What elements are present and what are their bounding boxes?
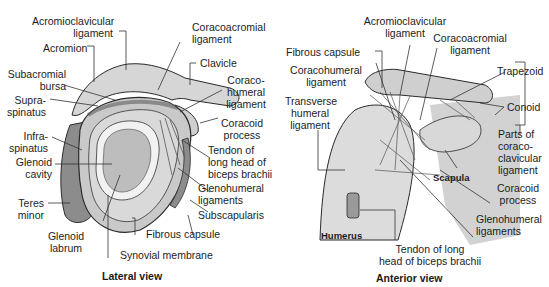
caption-lateral-view: Lateral view — [102, 270, 162, 282]
label-line: Glenohumeral — [198, 182, 264, 194]
label-parts-of-coracoclavicular-ligament: Parts of coraco- clavicular ligament — [498, 128, 542, 176]
label-line: humeral — [224, 86, 268, 98]
label-humerus: Humerus — [321, 230, 362, 242]
label-line: Coraco- — [224, 74, 268, 86]
label-clavicle: Clavicle — [200, 57, 237, 69]
label-coracoid-process-lateral: Coracoid process — [218, 117, 266, 141]
label-line: minor — [6, 209, 44, 221]
label-line: ligament — [430, 44, 510, 56]
label-line: Parts of — [498, 128, 542, 140]
label-coracohumeral-ligament-anterior: Coracohumeral ligament — [288, 64, 364, 88]
label-subscapularis: Subscapularis — [198, 209, 264, 221]
label-coracoacromial-ligament-lateral: Coracoacromial ligament — [192, 21, 266, 45]
label-tendon-biceps-anterior: Tendon of long head of biceps brachii — [360, 243, 500, 267]
label-line: Glenoid — [6, 156, 52, 168]
label-line: bursa — [6, 80, 66, 92]
label-line: Coracohumeral — [288, 64, 364, 76]
shoulder-joint-diagram: Acromioclavicular ligament Acromion Suba… — [0, 0, 549, 287]
label-line: Glenoid — [46, 230, 86, 242]
label-line: Coracoacromial — [430, 32, 510, 44]
label-line: ligament — [32, 27, 114, 39]
label-line: Subacromial — [6, 68, 66, 80]
label-line: cavity — [6, 168, 52, 180]
label-line: humeral — [285, 107, 335, 119]
label-line: ligament — [224, 98, 268, 110]
label-line: Transverse — [285, 95, 335, 107]
label-fibrous-capsule-lateral: Fibrous capsule — [146, 228, 220, 240]
label-subacromial-bursa: Subacromial bursa — [6, 68, 66, 92]
label-glenoid-labrum: Glenoid labrum — [46, 230, 86, 254]
label-supraspinatus: Supra- spinatus — [6, 94, 46, 118]
label-line: ligaments — [198, 194, 264, 206]
label-line: Glenohumeral — [476, 213, 542, 225]
label-line: process — [493, 194, 543, 206]
label-line: labrum — [46, 242, 86, 254]
label-line: Acromioclavicular — [32, 15, 114, 27]
label-coracoacromial-ligament-anterior: Coracoacromial ligament — [430, 32, 510, 56]
label-line: Tendon of long — [360, 243, 500, 255]
label-trapezoid: Trapezoid — [497, 65, 543, 77]
label-line: coraco- — [498, 140, 542, 152]
label-glenoid-cavity: Glenoid cavity — [6, 156, 52, 180]
label-acromion: Acromion — [43, 42, 87, 54]
label-coracoid-process-anterior: Coracoid process — [493, 182, 543, 206]
caption-anterior-view: Anterior view — [376, 272, 443, 284]
label-line: ligaments — [476, 225, 542, 237]
label-line: Coracoacromial — [192, 21, 266, 33]
label-line: Supra- — [6, 94, 46, 106]
label-line: ligament — [192, 33, 266, 45]
label-line: biceps brachii — [208, 168, 272, 180]
label-line: clavicular — [498, 152, 542, 164]
label-line: Coracoid — [218, 117, 266, 129]
label-scapula: Scapula — [433, 172, 469, 184]
label-line: spinatus — [6, 142, 48, 154]
label-teres-minor: Teres minor — [6, 197, 44, 221]
label-acromioclavicular-ligament-lateral: Acromioclavicular ligament — [32, 15, 114, 39]
label-tendon-biceps-lateral: Tendon of long head of biceps brachii — [208, 144, 272, 180]
label-line: ligament — [285, 119, 335, 131]
label-line: ligament — [288, 76, 364, 88]
label-conoid: Conoid — [507, 101, 540, 113]
label-synovial-membrane: Synovial membrane — [120, 249, 213, 261]
label-line: spinatus — [6, 106, 46, 118]
label-line: Acromioclavicular — [345, 15, 465, 27]
label-line: ligament — [498, 164, 542, 176]
label-line: Tendon of — [208, 144, 272, 156]
label-line: Coracoid — [493, 182, 543, 194]
label-glenohumeral-ligaments-anterior: Glenohumeral ligaments — [476, 213, 542, 237]
label-infraspinatus: Infra- spinatus — [6, 130, 48, 154]
label-line: Infra- — [6, 130, 48, 142]
label-glenohumeral-ligaments-lateral: Glenohumeral ligaments — [198, 182, 264, 206]
label-fibrous-capsule-anterior: Fibrous capsule — [286, 46, 360, 58]
label-line: long head of — [208, 156, 272, 168]
label-line: head of biceps brachii — [360, 255, 500, 267]
label-coracohumeral-ligament-lateral: Coraco- humeral ligament — [224, 74, 268, 110]
label-line: Teres — [6, 197, 44, 209]
label-line: process — [218, 129, 266, 141]
label-transverse-humeral-ligament: Transverse humeral ligament — [285, 95, 335, 131]
